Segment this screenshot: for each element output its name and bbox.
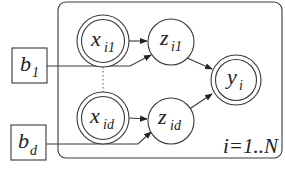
svg-text:i1: i1 xyxy=(104,40,115,55)
svg-text:x: x xyxy=(89,103,100,128)
svg-text:1: 1 xyxy=(32,65,39,80)
svg-text:x: x xyxy=(90,26,101,51)
node-x_i1: x i1 xyxy=(77,15,129,67)
node-z_i1: z i1 xyxy=(148,19,194,65)
node-b_d: b d xyxy=(11,125,46,160)
graphical-model-diagram: x i1 x id z i1 z id y i b 1 b d i=1..N xyxy=(0,0,285,172)
svg-text:b: b xyxy=(20,51,31,76)
svg-text:b: b xyxy=(18,128,29,153)
node-z_id: z id xyxy=(148,98,194,144)
edge-x_id-z_id xyxy=(129,118,147,119)
svg-text:id: id xyxy=(103,117,115,132)
node-y_i: y i xyxy=(211,55,261,105)
svg-text:i1: i1 xyxy=(171,39,182,54)
svg-text:z: z xyxy=(157,104,167,129)
node-b_1: b 1 xyxy=(12,48,47,83)
svg-text:id: id xyxy=(170,118,182,133)
svg-text:z: z xyxy=(159,25,169,50)
node-x_id: x id xyxy=(77,92,129,144)
svg-text:i: i xyxy=(239,78,243,93)
svg-text:y: y xyxy=(225,64,237,89)
edge-z_i1-y_i xyxy=(187,58,212,69)
svg-text:d: d xyxy=(30,143,38,158)
plate-label: i=1..N xyxy=(223,134,279,158)
edge-z_id-y_i xyxy=(188,94,212,110)
